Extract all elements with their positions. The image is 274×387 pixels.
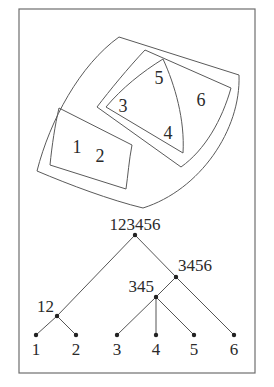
tree-node-dot: [174, 275, 178, 279]
nested-regions: [37, 37, 239, 208]
tree-node-label: 5: [190, 340, 199, 359]
tree-node-dot: [34, 333, 38, 337]
region-element-label: 1: [73, 137, 82, 157]
tree-node-label: 1: [32, 340, 41, 359]
tree-node-label: 3456: [178, 256, 212, 275]
tree-node-label: 2: [72, 340, 81, 359]
tree-node-label: 12: [37, 297, 54, 316]
tree-node-dot: [232, 333, 236, 337]
hierarchy-diagram: 123456 123456345634512123456: [0, 0, 274, 387]
region-element-label: 5: [155, 68, 164, 88]
region-element-labels: 123456: [73, 68, 206, 166]
tree-node-dot: [55, 314, 59, 318]
tree-edge: [117, 297, 156, 335]
tree-node-dot: [74, 333, 78, 337]
tree-node-dot: [154, 295, 158, 299]
tree-node-dot: [115, 333, 119, 337]
tree-edge: [36, 316, 57, 335]
tree-edge: [135, 235, 176, 277]
tree-node-label: 345: [129, 277, 155, 296]
region-3456: [97, 50, 231, 167]
region-123456: [37, 37, 239, 208]
tree-node-label: 4: [152, 340, 161, 359]
region-element-label: 2: [96, 146, 105, 166]
tree-edge: [156, 277, 176, 297]
tree-edge: [57, 235, 135, 316]
tree-node-dot: [154, 333, 158, 337]
tree-node-label: 6: [230, 340, 239, 359]
region-element-label: 6: [197, 90, 206, 110]
tree-node-dot: [192, 333, 196, 337]
tree-edge: [156, 297, 194, 335]
tree-edge: [57, 316, 76, 335]
region-element-label: 3: [119, 96, 128, 116]
region-element-label: 4: [164, 123, 173, 143]
region-12: [50, 108, 132, 189]
tree-node-label: 3: [113, 340, 122, 359]
tree-node-label: 123456: [110, 215, 161, 234]
